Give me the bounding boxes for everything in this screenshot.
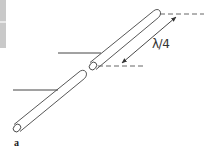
dipole-diagram <box>0 0 222 153</box>
panel-label: a <box>14 137 19 148</box>
quarter-wavelength-label: λ/4 <box>152 37 169 51</box>
lower-dipole-rod <box>12 70 87 133</box>
upper-dipole-rod <box>88 10 161 72</box>
